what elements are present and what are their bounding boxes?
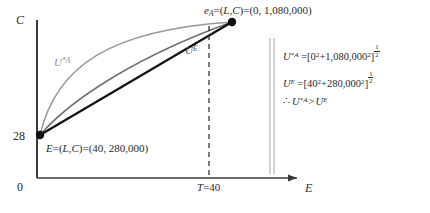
- point-marker-ea: [228, 18, 236, 26]
- eq-ue-term2-base: 280,000: [327, 78, 361, 89]
- point-marker-e: [36, 131, 44, 139]
- y-axis-tick-label-28: 28: [13, 130, 25, 142]
- y-axis-label: C: [16, 14, 24, 26]
- eq-ua-exponent-denominator: 2: [374, 52, 379, 59]
- eq-ua-term2-base: 1,080,000: [325, 51, 367, 62]
- eq-ua-equals: =[: [299, 51, 311, 62]
- eq-ue-exponent-half: 12: [368, 71, 373, 85]
- point-e-name: E: [46, 142, 53, 154]
- eq-ua-lhs-base: U: [283, 51, 291, 62]
- equation-conclusion: ∴U*A>UE: [283, 97, 429, 108]
- conclusion-lhs-superscript: *A: [300, 96, 308, 104]
- point-ea-equals-1: =(: [213, 4, 223, 16]
- point-e-coords: 40, 280,000: [92, 142, 144, 154]
- origin-label: 0: [17, 181, 23, 193]
- curve-label-ua: U*A: [54, 57, 70, 68]
- point-ea-coords: 0, 1,080,000: [253, 4, 308, 16]
- conclusion-rhs-base: U: [315, 96, 323, 107]
- x-tick-value: =40: [203, 181, 220, 193]
- conclusion-rhs-superscript: E: [323, 96, 327, 104]
- conclusion-relation: >: [309, 96, 315, 107]
- point-e-close-paren: ): [145, 142, 149, 154]
- x-axis-arrowhead: [288, 174, 297, 181]
- equation-ua: U*A =[02+1,080,0002]12: [283, 44, 429, 63]
- curve-ua-superscript: *A: [62, 56, 70, 65]
- curve-ua-base: U: [54, 56, 62, 68]
- curve-label-ue: UE: [185, 45, 198, 56]
- eq-ue-term1-base: 40: [307, 78, 318, 89]
- eq-ua-lhs-superscript: *A: [291, 51, 299, 59]
- eq-ua-exponent-half: 12: [374, 44, 379, 58]
- eq-ue-lhs-base: U: [283, 78, 291, 89]
- curve-ue-superscript: E: [193, 44, 198, 53]
- therefore-symbol: ∴: [283, 96, 290, 107]
- indifference-curve-figure: C E 0 28 T=40 eA=(L,C)=(0, 1,080,000) E=…: [0, 0, 430, 213]
- point-label-ea: eA=(L,C)=(0, 1,080,000): [204, 5, 312, 17]
- point-ea-equals-2: )=(: [240, 4, 254, 16]
- point-e-equals-1: =(: [53, 142, 63, 154]
- eq-ue-exponent-denominator: 2: [368, 78, 373, 85]
- conclusion-lhs-base: U: [292, 96, 300, 107]
- point-label-e: E=(L,C)=(40, 280,000): [46, 143, 148, 154]
- equation-ue: UE =[402+280,0002]12: [283, 71, 429, 90]
- x-axis-tick-label-t40: T=40: [197, 182, 220, 193]
- point-e-vars: L,C: [63, 142, 79, 154]
- point-ea-vars: L,C: [223, 4, 239, 16]
- point-e-equals-2: )=(: [79, 142, 93, 154]
- curve-ue-base: U: [185, 44, 193, 56]
- equation-panel: U*A =[02+1,080,0002]12 UE =[402+280,0002…: [283, 44, 429, 108]
- eq-ue-equals: =[: [295, 78, 307, 89]
- point-ea-close-paren: ): [308, 4, 312, 16]
- x-axis-label: E: [305, 182, 312, 194]
